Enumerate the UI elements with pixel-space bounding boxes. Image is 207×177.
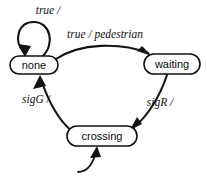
state-waiting-label: waiting bbox=[154, 58, 189, 70]
transition-none-self-label: true / bbox=[36, 4, 62, 16]
transition-crossing-to-none-label: sigG / bbox=[22, 93, 52, 106]
transition-waiting-to-crossing[interactable]: sigR / bbox=[130, 75, 175, 130]
transition-none-to-waiting[interactable]: true / pedestrian bbox=[56, 28, 152, 59]
transition-none-self[interactable]: true / bbox=[18, 4, 62, 57]
state-crossing-label: crossing bbox=[82, 130, 123, 142]
transition-crossing-to-none[interactable]: sigG / bbox=[22, 75, 72, 131]
transition-incoming-to-crossing-arrowhead bbox=[90, 146, 101, 158]
transition-waiting-to-crossing-label: sigR / bbox=[147, 96, 175, 109]
state-none[interactable]: none bbox=[10, 56, 58, 74]
transition-none-to-waiting-path bbox=[56, 46, 148, 59]
state-machine-diagram: true / true / pedestrian sigR / sigG / bbox=[0, 0, 207, 177]
state-crossing[interactable]: crossing bbox=[67, 126, 137, 146]
diagram-canvas: true / true / pedestrian sigR / sigG / bbox=[0, 0, 207, 177]
transition-incoming-to-crossing[interactable] bbox=[78, 146, 101, 172]
transition-none-to-waiting-label: true / pedestrian bbox=[67, 28, 143, 41]
transition-none-self-arrowhead bbox=[18, 44, 31, 57]
state-waiting[interactable]: waiting bbox=[144, 54, 200, 74]
transition-crossing-to-none-path bbox=[42, 82, 72, 131]
state-none-label: none bbox=[22, 59, 46, 71]
